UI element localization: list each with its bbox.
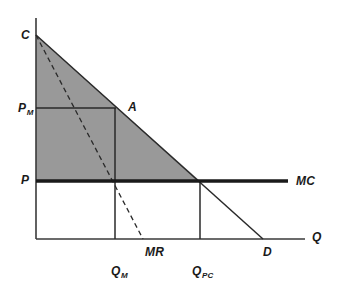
- label-mr: MR: [145, 246, 164, 258]
- label-q-monopoly-subscript: M: [121, 271, 128, 280]
- label-p-monopoly-subscript: M: [27, 108, 34, 117]
- label-a: A: [128, 101, 137, 113]
- label-q-perfect-competition: QPC: [192, 265, 213, 277]
- label-p-monopoly: PM: [18, 102, 33, 114]
- label-q-monopoly: QM: [111, 265, 127, 277]
- diagram-canvas: [0, 0, 337, 292]
- label-q-axis: Q: [312, 231, 322, 243]
- label-p-monopoly-base: P: [18, 101, 26, 115]
- label-q-monopoly-base: Q: [111, 264, 121, 278]
- label-c: C: [21, 29, 30, 41]
- label-d: D: [263, 246, 272, 258]
- label-p: P: [21, 174, 29, 186]
- label-q-perfect-competition-subscript: PC: [202, 271, 214, 280]
- label-mc: MC: [296, 175, 315, 187]
- label-q-perfect-competition-base: Q: [192, 264, 202, 278]
- economics-diagram: C P A MC Q D MR PM QM QPC: [0, 0, 337, 292]
